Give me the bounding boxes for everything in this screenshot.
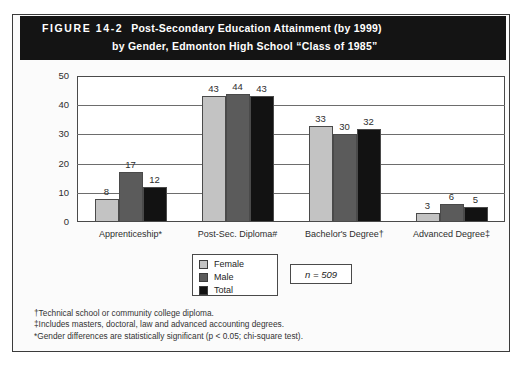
bar-value-label: 43	[202, 83, 226, 94]
bar-value-label: 43	[250, 83, 274, 94]
y-tick-label-50: 50	[27, 70, 69, 81]
figure-number: FIGURE 14-2	[42, 22, 123, 34]
chart-plot-area: 01020304050 81712Apprenticeship*434443Po…	[22, 64, 494, 250]
y-tick-label-20: 20	[27, 158, 69, 169]
title-line-2: by Gender, Edmonton High School “Class o…	[112, 40, 378, 52]
bar-value-label: 8	[95, 186, 119, 197]
bar-male-1	[119, 172, 143, 222]
legend-item-total: Total	[199, 284, 277, 296]
y-tick-label-0: 0	[27, 216, 69, 227]
legend-swatch-female-icon	[199, 260, 208, 269]
bar-female-4	[416, 213, 440, 222]
bar-female-1	[95, 199, 119, 222]
x-axis-label-4: Advanced Degree‡	[382, 229, 521, 239]
bar-value-label: 6	[440, 191, 464, 202]
footnote-3: *Gender differences are statistically si…	[34, 331, 474, 342]
bar-value-label: 32	[357, 116, 381, 127]
legend-item-male: Male	[199, 271, 277, 283]
bar-value-label: 30	[333, 121, 357, 132]
legend-swatch-male-icon	[199, 273, 208, 282]
bar-value-label: 44	[226, 81, 250, 92]
bar-male-3	[333, 134, 357, 222]
y-tick-label-40: 40	[27, 99, 69, 110]
bar-value-label: 33	[309, 113, 333, 124]
y-tick-label-10: 10	[27, 187, 69, 198]
footnote-1: †Technical school or community college d…	[34, 308, 474, 319]
figure-footnotes: †Technical school or community college d…	[34, 308, 474, 342]
bar-female-2	[202, 96, 226, 222]
bar-total-2	[250, 96, 274, 222]
legend-swatch-total-icon	[199, 286, 208, 295]
bar-male-4	[440, 204, 464, 222]
bar-value-label: 3	[416, 200, 440, 211]
y-tick-label-30: 30	[27, 128, 69, 139]
figure-title-part-1: Post-Secondary Education Attainment (by …	[131, 22, 382, 34]
figure-root: FIGURE 14-2Post-Secondary Education Atta…	[0, 0, 526, 372]
bar-total-1	[143, 187, 167, 222]
footnote-2: ‡Includes masters, doctoral, law and adv…	[34, 319, 474, 330]
bar-value-label: 5	[464, 194, 488, 205]
title-line-1: FIGURE 14-2Post-Secondary Education Atta…	[42, 22, 382, 34]
sample-size-box: n = 509	[290, 264, 352, 284]
bar-male-2	[226, 94, 250, 222]
legend-label-total: Total	[214, 285, 233, 295]
legend-label-male: Male	[214, 272, 234, 282]
figure-title-banner: FIGURE 14-2Post-Secondary Education Atta…	[20, 16, 506, 60]
bar-total-3	[357, 129, 381, 222]
bar-value-label: 17	[119, 159, 143, 170]
chart-legend: Female Male Total	[192, 254, 278, 296]
legend-item-female: Female	[199, 258, 277, 270]
bar-total-4	[464, 207, 488, 222]
legend-label-female: Female	[214, 259, 244, 269]
bar-value-label: 12	[143, 174, 167, 185]
bar-female-3	[309, 126, 333, 222]
